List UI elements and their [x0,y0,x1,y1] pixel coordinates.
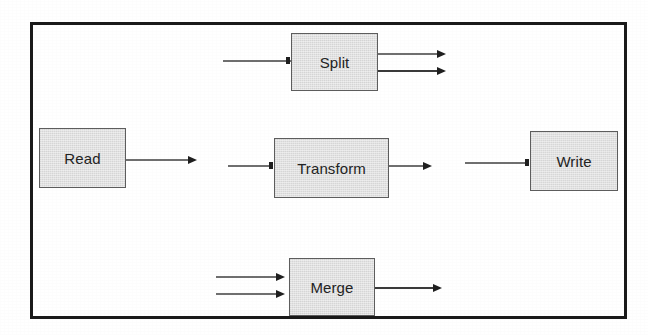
edge-transform-output-arrowhead [423,162,432,170]
edge-read-output-arrowhead [188,156,197,164]
edge-split-output-2 [378,70,444,72]
block-merge[interactable]: Merge [289,258,375,316]
block-merge-label: Merge [310,280,353,295]
edge-split-output-1 [378,53,444,55]
block-read[interactable]: Read [39,128,126,188]
edge-write-input [465,162,525,164]
edge-merge-input-2 [216,293,278,295]
edge-transform-input-terminal [269,162,273,169]
edge-merge-output [375,287,437,289]
edge-merge-input-2-arrowhead [276,290,285,298]
edge-split-input [223,60,291,62]
block-split-label: Split [320,55,350,70]
edge-read-output [126,159,192,161]
block-split[interactable]: Split [291,33,378,91]
edge-transform-output [389,165,427,167]
block-read-label: Read [64,151,100,166]
edge-merge-output-arrowhead [433,284,442,292]
edge-merge-input-1-arrowhead [276,273,285,281]
block-write-label: Write [556,154,591,169]
edge-merge-input-1 [216,276,278,278]
edge-transform-input [228,165,273,167]
edge-split-output-2-arrowhead [437,67,446,75]
diagram-canvas: Split Read Transform Write [0,0,648,335]
block-transform[interactable]: Transform [274,138,389,198]
diagram-frame: Split Read Transform Write [30,22,627,319]
edge-write-input-terminal [525,159,529,166]
block-transform-label: Transform [297,161,366,176]
edge-split-output-1-arrowhead [437,50,446,58]
edge-split-input-terminal [286,57,290,64]
block-write[interactable]: Write [530,131,618,191]
